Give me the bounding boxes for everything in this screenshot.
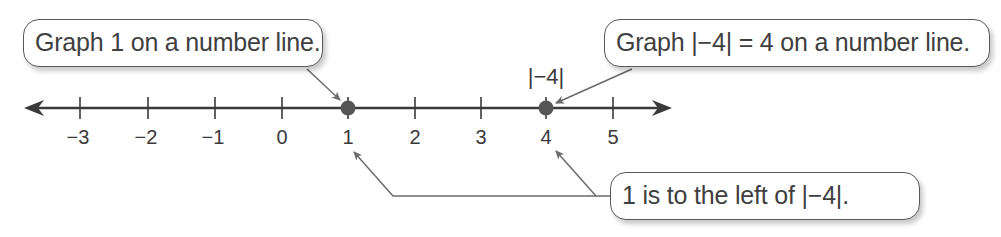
pointer-graph-one (307, 69, 340, 100)
callout-graph-one: Graph 1 on a number line. (23, 19, 323, 67)
tick-label-3: 3 (475, 126, 486, 149)
callout-comparison: 1 is to the left of |−4|. (610, 172, 920, 220)
tick-label-2: 2 (409, 126, 420, 149)
pointer-graph-abs (556, 69, 632, 103)
tick-label-0: 0 (276, 126, 287, 149)
tick-label-neg1: −1 (202, 126, 225, 149)
tick-label-4: 4 (540, 126, 551, 149)
pointer-comparison-to-4 (556, 151, 596, 196)
tick-label-1: 1 (342, 126, 353, 149)
tick-label-neg3: −3 (67, 126, 90, 149)
tick-label-neg2: −2 (135, 126, 158, 149)
callout-graph-abs: Graph |−4| = 4 on a number line. (604, 19, 990, 67)
tick-label-5: 5 (607, 126, 618, 149)
point-4 (539, 101, 554, 116)
pointer-comparison-to-1 (354, 152, 612, 196)
abs-value-label: |−4| (528, 64, 565, 90)
point-1 (341, 101, 356, 116)
